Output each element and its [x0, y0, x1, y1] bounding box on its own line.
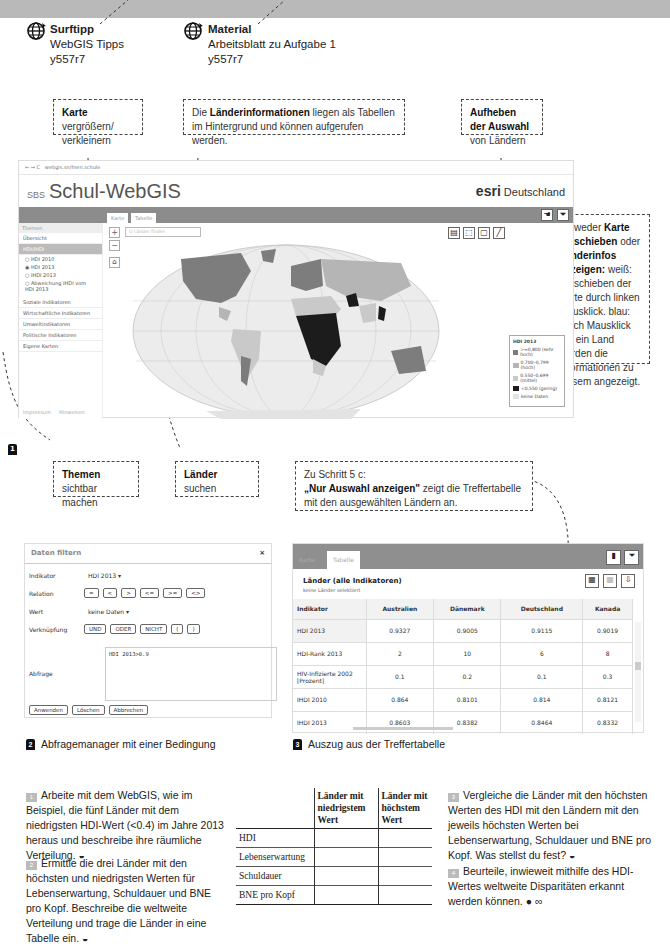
sidebar-item-overview[interactable]: Übersicht	[19, 233, 102, 244]
empty-cell[interactable]	[314, 886, 378, 905]
indikator-select[interactable]: HDI 2013 ▾	[84, 570, 125, 581]
column-header[interactable]: Indikator	[293, 599, 366, 619]
table-row[interactable]: IHDI 20130.86030.83820.84640.8332	[293, 711, 633, 734]
task-text: Ermittle die drei Länder mit den höchste…	[26, 857, 211, 944]
draw-button[interactable]: ╱	[493, 227, 505, 239]
tab-tabelle[interactable]: Tabelle	[131, 213, 156, 223]
relation-le-button[interactable]: <=	[140, 588, 159, 598]
callout-bold: „Nur Auswahl anzeigen"	[304, 483, 420, 494]
close-paren-button[interactable]: )	[187, 624, 199, 634]
and-button[interactable]: UND	[84, 624, 106, 634]
callout-text: oder	[617, 236, 640, 247]
empty-cell[interactable]	[378, 848, 432, 867]
not-button[interactable]: NICHT	[140, 624, 167, 634]
relation-eq-button[interactable]: =	[84, 588, 99, 598]
empty-cell[interactable]	[314, 867, 378, 886]
wert-select[interactable]: keine Daten ▾	[84, 606, 133, 617]
column-header[interactable]: Deutschland	[501, 599, 583, 619]
zoom-in-button[interactable]: +	[109, 227, 120, 238]
radio-hdi-2013[interactable]: ◉ HDI 2013	[19, 263, 102, 271]
task-1: 1Arbeite mit dem WebGIS, wie im Beispiel…	[26, 788, 226, 863]
table-view-button[interactable]: ▤	[448, 227, 460, 239]
callout-text: von Ländern	[470, 135, 526, 146]
task-text: Vergleiche die Länder mit den höchsten W…	[448, 789, 651, 861]
impressum-link[interactable]: Impressum	[23, 409, 51, 415]
radio-ihdi-2013[interactable]: ○ IHDI 2013	[19, 271, 102, 279]
tab-tabelle[interactable]: Tabelle	[327, 551, 360, 569]
wert-label: Wert	[29, 608, 84, 615]
hints-link[interactable]: Hinweisen	[59, 409, 85, 415]
relation-ne-button[interactable]: <>	[186, 588, 205, 598]
column-header[interactable]: Kanada	[583, 599, 633, 619]
address-bar[interactable]: ← → C webgis.sn/fnen.schule	[19, 161, 573, 175]
relation-label: Relation	[29, 590, 84, 597]
export-button[interactable]: ⇩	[621, 574, 635, 588]
table-title: Länder (alle Indikatoren)	[303, 577, 402, 585]
verknuepfung-label: Verknüpfung	[29, 626, 84, 633]
radio-hdi-2010[interactable]: ○ HDI 2010	[19, 255, 102, 263]
country-search-input[interactable]: Q Länder finden	[125, 227, 201, 237]
tab-karte[interactable]: Karte	[107, 213, 128, 223]
filter-dialog: Daten filtern× IndikatorHDI 2013 ▾ Relat…	[24, 543, 272, 718]
horizontal-scrollbar[interactable]	[353, 727, 453, 730]
empty-cell[interactable]	[378, 867, 432, 886]
show-selection-button[interactable]: ▦	[603, 574, 617, 588]
callout-bold: Länderinformationen	[210, 107, 310, 118]
map-area[interactable]: + − ⌂ Q Länder finden ▤ ⬚ ▢ ╱	[105, 223, 573, 419]
home-button[interactable]: ⌂	[109, 257, 120, 268]
apply-button[interactable]: Anwenden	[29, 705, 68, 715]
filter-icon[interactable]: ⏷	[557, 209, 569, 221]
vertical-scrollbar[interactable]	[635, 622, 641, 722]
sidebar-item-economic[interactable]: Wirtschaftliche Indikatoren	[19, 308, 102, 319]
row-label: Schuldauer	[236, 867, 314, 886]
select-box-button[interactable]: ⬚	[463, 227, 475, 239]
cell: IHDI 2013	[293, 711, 366, 734]
figure-number-1: 1	[8, 436, 17, 455]
brand-title: Schul-WebGIS	[49, 180, 181, 202]
relation-gt-button[interactable]: >	[121, 588, 136, 598]
sidebar-item-political[interactable]: Politische Indikatoren	[19, 330, 102, 341]
sidebar-item-hdi[interactable]: HDI/IHDI	[19, 244, 102, 255]
chart-icon[interactable]: ▮	[606, 550, 621, 565]
legend-label: 0,700–0,799 (hoch)	[521, 360, 561, 370]
table-row[interactable]: IHDI 20100.8640.81010.8140.8121	[293, 688, 633, 711]
column-header[interactable]: Australien	[366, 599, 434, 619]
radio-label: HDI 2010	[31, 256, 54, 262]
layers-button[interactable]: ▢	[478, 227, 490, 239]
empty-cell[interactable]	[378, 886, 432, 905]
relation-ge-button[interactable]: >=	[163, 588, 182, 598]
cell: 10	[434, 642, 501, 665]
tab-karte[interactable]: Karte	[293, 551, 321, 569]
radio-deviation[interactable]: ○ Abweichung IHDI vom HDI 2013	[19, 279, 102, 293]
sidebar-item-own-maps[interactable]: Eigene Karten	[19, 341, 102, 352]
callout-bold: Aufheben der Auswahl	[470, 107, 529, 132]
or-button[interactable]: ODER	[110, 624, 136, 634]
query-textarea[interactable]: HDI 2013>0.9	[105, 647, 277, 701]
clear-button[interactable]: Löschen	[72, 705, 105, 715]
table-row[interactable]: HDI-Rank 201321068	[293, 642, 633, 665]
close-icon[interactable]: ×	[259, 549, 265, 558]
sidebar-item-social[interactable]: Soziale Indikatoren	[19, 297, 102, 308]
table-row[interactable]: HDI 20130.93270.90050.91150.9019	[293, 619, 633, 642]
callout-text: vergrößern/ verkleinern	[62, 121, 114, 146]
row-label: BNE pro Kopf	[236, 886, 314, 905]
pointer-hand-button[interactable]: ☚	[541, 209, 553, 221]
dialog-title: Daten filtern	[31, 549, 81, 558]
empty-cell[interactable]	[314, 848, 378, 867]
column-header[interactable]: Dänemark	[434, 599, 501, 619]
legend-label: 0,550–0,699 (mittel)	[520, 373, 561, 383]
empty-cell[interactable]	[314, 829, 378, 848]
callout-zoom: Karte vergrößern/ verkleinern	[53, 99, 143, 135]
cell: 0.814	[501, 688, 583, 711]
task-text: Arbeite mit dem WebGIS, wie im Beispiel,…	[26, 789, 224, 861]
table-row[interactable]: HIV-Infizierte 2002 [Prozent]0.10.20.10.…	[293, 665, 633, 688]
cancel-button[interactable]: Abbrechen	[109, 705, 149, 715]
open-paren-button[interactable]: (	[171, 624, 183, 634]
show-all-button[interactable]: ▦	[585, 574, 599, 588]
zoom-out-button[interactable]: −	[109, 240, 120, 251]
cell: 0.864	[366, 688, 434, 711]
sidebar-item-environment[interactable]: Umweltindikatoren	[19, 319, 102, 330]
empty-cell[interactable]	[378, 829, 432, 848]
filter-icon[interactable]: ⏷	[624, 550, 639, 565]
relation-lt-button[interactable]: <	[103, 588, 118, 598]
